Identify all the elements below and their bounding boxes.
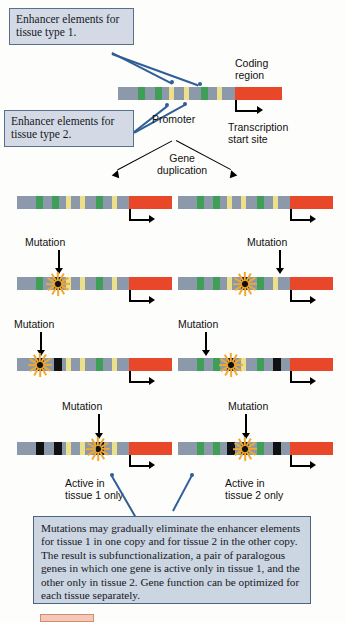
enhancer-element-green-1 — [213, 196, 220, 209]
enhancer-element-green-0 — [138, 87, 145, 100]
coding-region-segment — [129, 277, 172, 290]
enhancer-element-green-4 — [257, 358, 264, 371]
label-mutation-right-2: Mutation — [178, 318, 218, 330]
label-mutation-left-3: Mutation — [62, 400, 102, 412]
enhancer-element-yellow-5 — [112, 277, 117, 290]
enhancer-element-yellow-3 — [80, 196, 85, 209]
enhancer-element-yellow-2 — [227, 277, 232, 290]
enhancer-element-green-4 — [257, 442, 264, 455]
leader-dot-tissue1-a — [170, 80, 174, 84]
gene-bar-copy-2-stage-3 — [178, 358, 333, 371]
label-gene-duplication: Gene duplication — [157, 152, 207, 176]
enhancer-element-yellow-3 — [80, 277, 85, 290]
mutation-burst-copy-2-stage-2 — [234, 273, 256, 295]
coding-region-segment — [290, 277, 333, 290]
callout-enhancer-tissue-1: Enhancer elements for tissue type 1. — [9, 8, 134, 45]
coding-region-segment — [290, 196, 333, 209]
coding-region-segment — [129, 358, 172, 371]
gene-bar-ancestral-gene — [118, 87, 282, 100]
enhancer-element-yellow-5 — [217, 87, 222, 100]
leader-dot-tissue1-b — [198, 82, 202, 86]
enhancer-element-green-1 — [155, 87, 162, 100]
enhancer-element-yellow-5 — [112, 196, 117, 209]
coding-region-segment — [129, 442, 172, 455]
enhancer-element-green-1 — [213, 277, 220, 290]
callout-enhancer-tissue-1-text: Enhancer elements for tissue type 1. — [16, 13, 119, 38]
gene-bar-copy-1-stage-2 — [17, 277, 172, 290]
label-mutation-right-1: Mutation — [247, 236, 287, 248]
enhancer-element-green-0 — [197, 442, 204, 455]
caption-leader-line-right — [173, 475, 193, 511]
caption-box: Mutations may gradually eliminate the en… — [33, 516, 311, 604]
mutation-burst-copy-1-final — [87, 438, 109, 460]
enhancer-element-green-0 — [197, 358, 204, 371]
enhancer-element-yellow-3 — [80, 358, 85, 371]
enhancer-element-green-0 — [197, 196, 204, 209]
mutation-arrow-right-2-head — [202, 350, 210, 356]
enhancer-element-black-5 — [273, 358, 281, 371]
mutation-arrow-left-3-line — [98, 414, 100, 435]
gene-bar-copy-1-stage-1 — [17, 196, 172, 209]
mutation-arrow-left-1-line — [58, 250, 60, 270]
leader-dot-tissue2-a — [165, 103, 169, 107]
callout-enhancer-tissue-2-text: Enhancer elements for tissue type 2. — [11, 115, 114, 140]
enhancer-element-yellow-3 — [184, 87, 189, 100]
label-active-tissue-2: Active in tissue 2 only — [225, 477, 283, 501]
enhancer-element-yellow-2 — [169, 87, 174, 100]
enhancer-element-green-4 — [96, 358, 103, 371]
enhancer-element-black-5 — [273, 442, 281, 455]
enhancer-element-green-1 — [52, 196, 59, 209]
mutation-burst-copy-2-final — [234, 438, 256, 460]
enhancer-element-black-1 — [54, 358, 62, 371]
page-color-tab — [40, 614, 94, 622]
enhancer-element-yellow-5 — [112, 358, 117, 371]
enhancer-element-green-0 — [197, 277, 204, 290]
enhancer-element-green-4 — [96, 277, 103, 290]
enhancer-element-yellow-2 — [66, 358, 71, 371]
enhancer-element-green-4 — [96, 196, 103, 209]
leader-dot-tissue2-b — [183, 102, 187, 106]
enhancer-element-black-0 — [36, 442, 44, 455]
label-transcription-start-site: Transcription start site — [228, 121, 288, 145]
leader-line-tissue1-b — [112, 53, 199, 86]
enhancer-element-yellow-5 — [112, 442, 117, 455]
enhancer-element-green-4 — [257, 277, 264, 290]
duplication-arrow-left-head — [112, 170, 123, 181]
mutation-arrow-right-3-line — [245, 414, 247, 435]
mutation-burst-copy-1-stage-3 — [29, 354, 51, 376]
enhancer-element-green-0 — [36, 196, 43, 209]
label-mutation-right-3: Mutation — [228, 400, 268, 412]
mutation-arrow-left-2-line — [40, 332, 42, 352]
mutation-burst-copy-2-stage-3 — [220, 354, 242, 376]
enhancer-element-yellow-2 — [66, 196, 71, 209]
coding-region-segment — [290, 358, 333, 371]
mutation-arrow-right-1-head — [276, 268, 284, 274]
coding-region-segment — [235, 87, 282, 100]
coding-region-segment — [129, 196, 172, 209]
callout-enhancer-tissue-2: Enhancer elements for tissue type 2. — [4, 110, 134, 147]
gene-bar-copy-2-stage-1 — [178, 196, 333, 209]
enhancer-element-green-4 — [201, 87, 208, 100]
label-mutation-left-1: Mutation — [25, 236, 65, 248]
enhancer-element-yellow-3 — [80, 442, 85, 455]
label-mutation-left-2: Mutation — [14, 318, 54, 330]
mutation-arrow-right-2-line — [205, 332, 207, 352]
mutation-arrow-right-1-line — [279, 250, 281, 270]
duplication-arrow-right-head — [227, 170, 238, 181]
enhancer-element-yellow-5 — [273, 196, 278, 209]
enhancer-element-yellow-5 — [273, 277, 278, 290]
enhancer-element-green-0 — [36, 277, 43, 290]
enhancer-element-yellow-2 — [227, 196, 232, 209]
enhancer-element-green-1 — [213, 442, 220, 455]
enhancer-element-black-1 — [54, 442, 62, 455]
label-promoter: Promoter — [152, 113, 195, 125]
enhancer-element-green-4 — [257, 196, 264, 209]
caption-text: Mutations may gradually eliminate the en… — [41, 522, 300, 601]
label-coding-region: Coding region — [235, 57, 268, 81]
coding-region-segment — [290, 442, 333, 455]
enhancer-element-yellow-3 — [241, 196, 246, 209]
figure-canvas: Enhancer elements for tissue type 1. Enh… — [0, 0, 346, 623]
enhancer-element-yellow-2 — [66, 442, 71, 455]
mutation-burst-copy-1-stage-2 — [47, 273, 69, 295]
